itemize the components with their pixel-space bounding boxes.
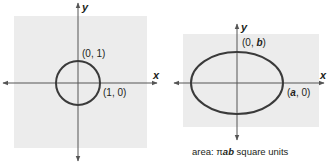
area-caption: area: πab square units: [192, 146, 289, 157]
unit-circle-background: [14, 16, 147, 148]
unit-circle-figure: y x (0, 1) (1, 0): [3, 1, 160, 161]
y-axis-label: y: [81, 1, 89, 13]
point-label-1-0: (1, 0): [103, 87, 126, 98]
point-label-0-1: (0, 1): [82, 48, 105, 59]
point-label-a-0: (a, 0): [287, 87, 310, 98]
ellipse-figure: y x (0, b) (a, 0) area: πab square units: [174, 21, 327, 157]
x-axis-label: x: [152, 69, 160, 81]
diagram-canvas: y x (0, 1) (1, 0) y x (0, b) (a, 0) area…: [0, 0, 328, 164]
y-axis-label: y: [240, 21, 248, 33]
x-axis-label: x: [319, 69, 327, 81]
point-label-0-b: (0, b): [242, 37, 266, 48]
